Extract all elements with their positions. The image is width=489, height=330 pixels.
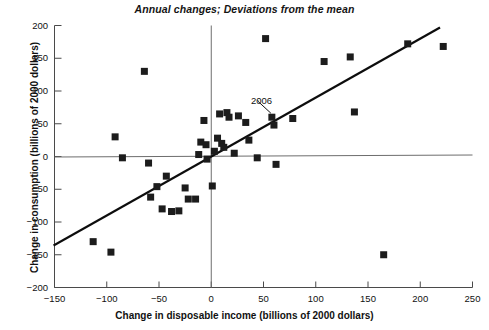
y-tick-label: 150 [8,52,48,63]
zero-lines [55,26,473,288]
data-point-marker [321,58,328,65]
x-tick-label: −150 [30,293,80,304]
data-points [90,35,447,258]
y-tick-label: −50 [8,183,48,194]
data-point-marker [195,151,202,158]
data-point-marker [245,137,252,144]
data-point-marker [380,251,387,258]
x-tick-label: 50 [239,293,289,304]
data-point-marker [204,156,211,163]
data-point-marker [289,115,296,122]
y-tick-label: −200 [8,282,48,293]
data-point-marker [163,173,170,180]
data-point-marker [145,160,152,167]
data-point-marker [112,133,119,140]
data-point-marker [168,208,175,215]
data-point-marker [153,183,160,190]
data-point-marker [226,114,233,121]
y-tick-label: 50 [8,118,48,129]
x-tick-label: 150 [343,293,393,304]
data-point-marker [347,53,354,60]
y-tick-label: −150 [8,249,48,260]
data-point-marker [235,112,242,119]
y-tick-label: 0 [8,151,48,162]
data-point-marker [231,150,238,157]
data-point-marker [203,141,210,148]
x-tick-label: −50 [134,293,184,304]
scatter-chart-figure: Annual changes; Deviations from the mean… [0,0,489,330]
data-point-marker [90,238,97,245]
data-point-marker [119,154,126,161]
data-point-marker [211,148,218,155]
x-tick-label: 200 [395,293,445,304]
x-axis-title: Change in disposable income (billions of… [0,310,489,321]
data-point-marker [216,110,223,117]
x-tick-label: 100 [291,293,341,304]
data-point-marker [141,68,148,75]
data-point-marker [182,184,189,191]
data-point-marker [159,205,166,212]
data-point-marker [254,154,261,161]
data-point-marker [147,194,154,201]
data-point-marker [192,196,199,203]
data-point-marker [200,117,207,124]
annotation-label-2006: 2006 [251,95,272,106]
x-tick-label: −100 [82,293,132,304]
data-point-marker [440,43,447,50]
zero-line-horizontal [55,155,473,157]
data-point-marker [351,108,358,115]
data-point-marker [209,182,216,189]
data-point-marker [270,122,277,129]
x-tick-label: 0 [186,293,236,304]
data-point-marker [262,35,269,42]
y-tick-label: 100 [8,85,48,96]
data-point-marker [242,119,249,126]
data-point-marker [220,144,227,151]
y-tick-label: 200 [8,20,48,31]
data-point-marker [273,161,280,168]
y-tick-label: −100 [8,216,48,227]
data-point-marker [175,207,182,214]
x-tick-label: 250 [448,293,489,304]
data-point-marker [404,40,411,47]
plot-area [0,0,489,330]
data-point-marker [185,196,192,203]
data-point-marker [107,249,114,256]
data-point-marker [268,114,275,121]
